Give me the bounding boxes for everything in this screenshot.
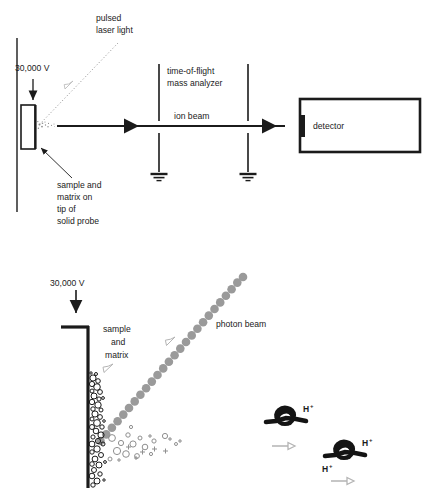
protonated-analyte-2 [325, 442, 365, 458]
analyte-backbone-2 [325, 452, 365, 456]
proton-label-3: H [322, 464, 328, 474]
probe-label-line4: solid probe [57, 216, 99, 226]
ion-beam-label: ion beam [174, 111, 209, 121]
analyzer-label-line1: time-of-flight [167, 66, 215, 76]
proton-charge-1: + [310, 403, 314, 409]
desorbed-ion-cloud [108, 425, 178, 461]
ion-beam-arrowhead-2 [262, 119, 277, 134]
laser-label-line1: pulsed [96, 13, 122, 23]
protonated-analyte-1 [266, 408, 306, 424]
analyzer-label-line2: mass analyzer [167, 78, 223, 88]
proton-label-1: H [303, 404, 309, 414]
ion-beam-arrowhead-1 [124, 119, 139, 134]
sample-callout-arrow-icon [103, 364, 113, 373]
photon-beam-label: photon beam [216, 319, 266, 329]
analyte-1-direction-arrow-icon [272, 443, 295, 450]
voltage-label-bottom: 30,000 V [50, 278, 85, 288]
ground-symbol-1 [151, 174, 168, 181]
probe-label-line2: matrix on [57, 192, 93, 202]
sample-label-line1: sample [103, 324, 131, 334]
proton-charge-3: + [329, 463, 333, 469]
maldi-tof-figure: 30,000 V pulsed laser light time-of-flig… [0, 0, 426, 488]
detector-element [299, 115, 305, 137]
analyte-2-direction-arrow-icon [331, 478, 354, 485]
proton-label-2: H [362, 438, 368, 448]
laser-label-line2: laser light [96, 25, 133, 35]
sample-label-line3: matrix [105, 350, 129, 360]
laser-direction-arrow-icon [64, 81, 73, 89]
ground-symbol-2 [240, 174, 257, 181]
probe-label-line3: tip of [57, 204, 76, 214]
pulsed-laser-beam [38, 43, 118, 126]
proton-charge-2: + [369, 437, 373, 443]
probe-callout-arrow [41, 148, 72, 178]
sample-and-matrix-layer [89, 372, 106, 487]
sample-label-line2: and [111, 337, 126, 347]
analyte-backbone-1 [266, 418, 306, 422]
photon-beam-direction-arrow-icon [165, 337, 175, 346]
probe-label-line1: sample and [57, 180, 102, 190]
solid-probe-top [21, 105, 35, 149]
desorption-plume-top [37, 121, 58, 129]
voltage-label-top: 30,000 V [15, 63, 50, 73]
ion-charge-marks [117, 434, 182, 462]
detector-label: detector [313, 121, 344, 131]
